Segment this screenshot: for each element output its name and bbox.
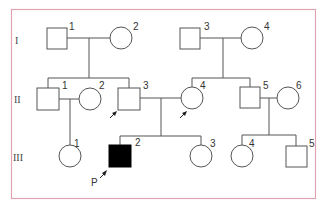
individual-number: 3 — [204, 21, 210, 32]
female-symbol — [241, 27, 263, 49]
male-symbol — [286, 146, 307, 167]
individual-number: 4 — [264, 21, 270, 32]
individual-II-6: 6 — [277, 80, 302, 109]
individual-number: 1 — [69, 21, 75, 32]
female-symbol — [190, 145, 212, 167]
individual-II-1: 1 — [37, 80, 68, 110]
individual-I-2: 2 — [110, 21, 139, 49]
female-symbol — [110, 27, 132, 49]
individual-number: 4 — [200, 80, 206, 91]
individual-I-1: 1 — [47, 21, 75, 49]
individual-III-5: 5 — [286, 138, 315, 167]
male-symbol — [118, 88, 140, 110]
individual-number: 3 — [210, 138, 216, 149]
individual-number: 5 — [309, 138, 315, 149]
individual-II-4: 4 — [180, 80, 206, 118]
individual-I-3: 3 — [180, 21, 210, 49]
affected-male-symbol — [109, 145, 131, 167]
individual-number: 4 — [249, 138, 255, 149]
individual-II-2: 2 — [79, 80, 105, 110]
male-symbol — [47, 28, 67, 49]
proband-label: P — [91, 177, 98, 188]
generation-label-III: III — [13, 152, 23, 163]
male-symbol — [240, 87, 260, 108]
individual-III-2: 2 P — [91, 137, 141, 188]
male-symbol — [37, 88, 59, 110]
individual-number: 6 — [296, 80, 302, 91]
generation-label-I: I — [15, 35, 18, 46]
individual-number: 3 — [143, 80, 149, 91]
individual-number: 2 — [99, 80, 105, 91]
individual-number: 1 — [74, 138, 80, 149]
individual-II-5: 5 — [240, 80, 269, 108]
male-symbol — [180, 28, 200, 49]
individual-number: 5 — [263, 80, 269, 91]
individual-number: 2 — [135, 137, 141, 148]
individual-number: 1 — [62, 80, 68, 91]
arrow-icon — [180, 111, 187, 118]
individual-III-3: 3 — [190, 138, 216, 167]
pedigree-diagram: I II III 1 2 3 4 1 — [0, 0, 325, 205]
arrow-icon — [110, 111, 117, 118]
individual-III-4: 4 — [231, 138, 255, 167]
proband-arrow-icon — [100, 170, 107, 178]
individual-I-4: 4 — [241, 21, 270, 49]
generation-label-II: II — [14, 94, 21, 105]
individual-number: 2 — [133, 21, 139, 32]
female-symbol — [79, 88, 101, 110]
